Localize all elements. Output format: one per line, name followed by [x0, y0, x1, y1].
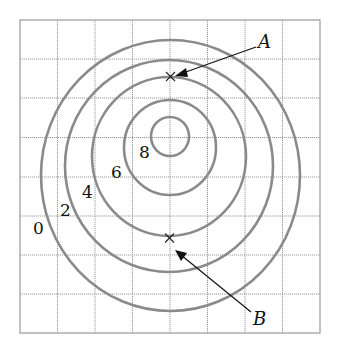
contour-label-0: 0: [33, 218, 44, 238]
contour-label-4: 4: [82, 182, 93, 202]
contour-label-8: 8: [139, 142, 150, 162]
point-label-a: A: [256, 31, 271, 52]
point-label-b: B: [252, 308, 266, 329]
contour-2: [65, 60, 273, 272]
contour-label-2: 2: [60, 200, 71, 220]
contour-label-6: 6: [111, 162, 122, 182]
arrowhead-icon: [175, 68, 188, 77]
contour-diagram: 0 2 4 6 8 A B: [0, 0, 337, 356]
